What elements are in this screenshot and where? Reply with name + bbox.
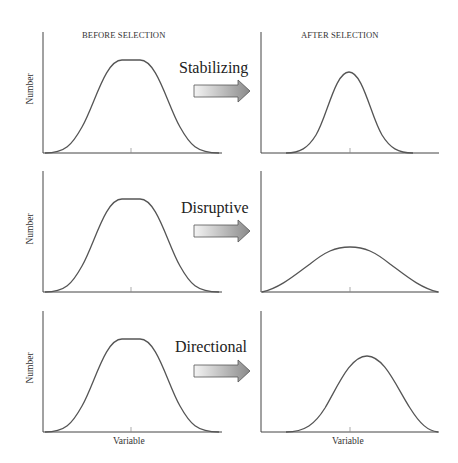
selection-label-disruptive: Disruptive [181, 199, 249, 217]
row-stabilizing-after-plot [261, 32, 439, 153]
selection-diagram: BEFORE SELECTION AFTER SELECTION Stabili… [0, 0, 458, 463]
y-axis-label-row3: Number [25, 348, 35, 388]
row-directional-after-plot [261, 311, 439, 432]
row-disruptive-after-plot [261, 171, 439, 292]
selection-label-directional: Directional [175, 338, 247, 356]
right-arrow-icon [194, 220, 250, 242]
before-selection-title: BEFORE SELECTION [82, 30, 165, 40]
y-axis-label-row2: Number [25, 209, 35, 249]
selection-label-stabilizing: Stabilizing [179, 59, 248, 77]
x-axis-label-after: Variable [332, 436, 364, 446]
after-curve [262, 247, 438, 292]
after-selection-title: AFTER SELECTION [301, 30, 379, 40]
right-arrow-icon [194, 80, 250, 102]
right-arrow-icon [194, 360, 250, 382]
after-curve [286, 356, 438, 432]
x-axis-label-before: Variable [113, 436, 145, 446]
y-axis-label-row1: Number [25, 69, 35, 109]
after-curve [286, 72, 413, 153]
